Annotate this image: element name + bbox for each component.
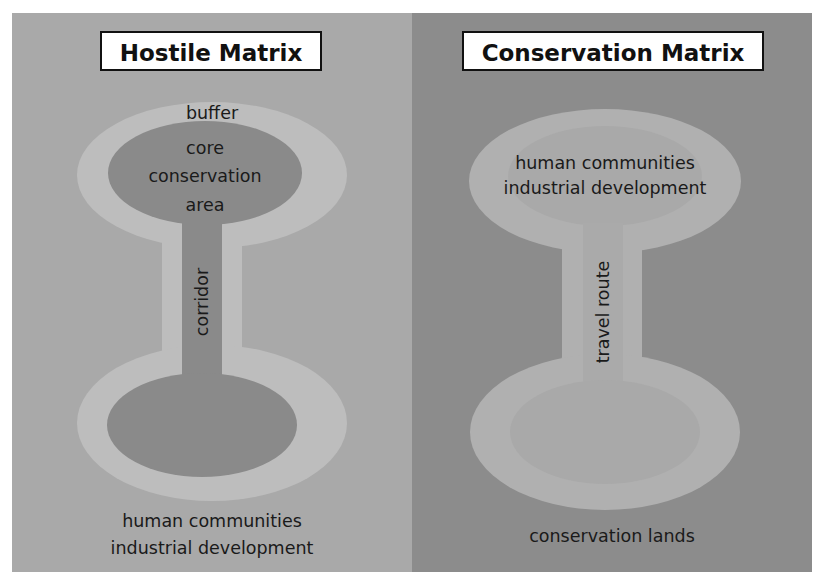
- top-label-line2: industrial development: [412, 177, 798, 200]
- hostile-matrix-panel: Hostile Matrix buffer core conservation …: [12, 13, 412, 572]
- buffer-label: buffer: [12, 102, 412, 125]
- conservation-lands-label: conservation lands: [412, 525, 812, 548]
- core-label-line3: area: [12, 194, 398, 217]
- core-label-line1: core: [12, 137, 398, 160]
- conservation-matrix-panel: Conservation Matrix human communities in…: [412, 13, 812, 572]
- hostile-matrix-label-line1: human communities: [12, 510, 412, 533]
- top-inner-area: [508, 126, 702, 226]
- corridor-label: corridor: [190, 252, 214, 352]
- travel-route-label: travel route: [591, 252, 615, 372]
- bottom-inner-area: [510, 380, 700, 484]
- core-label-line2: conservation: [12, 165, 398, 188]
- hostile-matrix-label-line2: industrial development: [12, 537, 412, 560]
- top-label-line1: human communities: [412, 152, 798, 175]
- bottom-core-area: [107, 373, 297, 477]
